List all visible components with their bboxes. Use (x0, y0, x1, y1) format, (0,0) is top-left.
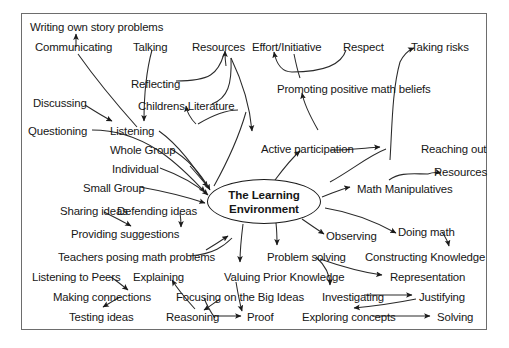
node-reaching-out[interactable]: Reaching out (421, 144, 486, 156)
node-writing-own-story-problems[interactable]: Writing own story problems (30, 22, 163, 34)
center-label-line-2: Environment (207, 202, 321, 216)
node-reasoning[interactable]: Reasoning (166, 312, 219, 324)
node-taking-risks[interactable]: Taking risks (411, 42, 469, 54)
center-label-line-1: The Learning (207, 188, 321, 202)
node-whole-group[interactable]: Whole Group (110, 145, 175, 157)
node-observing[interactable]: Observing (326, 231, 377, 243)
node-representation[interactable]: Representation (390, 272, 465, 284)
cutoff-header-text: Math Climate (22, 0, 93, 7)
node-explaining[interactable]: Explaining (133, 272, 184, 284)
node-resources-right[interactable]: Resources (434, 167, 487, 179)
node-math-manipulatives[interactable]: Math Manipulatives (357, 184, 452, 196)
node-focusing-on-the-big-ideas[interactable]: Focusing on the Big Ideas (176, 292, 304, 304)
node-making-connections[interactable]: Making connections (53, 292, 151, 304)
node-testing-ideas[interactable]: Testing ideas (69, 312, 134, 324)
node-exploring-concepts[interactable]: Exploring concepts (302, 312, 396, 324)
node-justifying[interactable]: Justifying (419, 292, 465, 304)
node-doing-math[interactable]: Doing math (398, 227, 455, 239)
node-defending-ideas[interactable]: Defending ideas (117, 206, 197, 218)
node-individual[interactable]: Individual (112, 164, 159, 176)
center-node-label: The Learning Environment (207, 188, 321, 215)
node-resources-top[interactable]: Resources (192, 42, 245, 54)
node-problem-solving[interactable]: Problem solving (267, 252, 346, 264)
node-listening[interactable]: Listening (110, 126, 154, 138)
node-listening-to-peers[interactable]: Listening to Peers (32, 272, 120, 284)
node-small-group[interactable]: Small Group (83, 183, 145, 195)
node-effort-initiative[interactable]: Effort/Initiative (252, 42, 321, 54)
node-discussing[interactable]: Discussing (33, 98, 87, 110)
node-valuing-prior-knowledge[interactable]: Valuing Prior Knowledge (224, 272, 344, 284)
node-reflecting[interactable]: Reflecting (131, 79, 180, 91)
node-childrens-literature[interactable]: Childrens Literature (138, 101, 234, 113)
node-talking[interactable]: Talking (133, 42, 167, 54)
node-proof[interactable]: Proof (247, 312, 273, 324)
node-solving[interactable]: Solving (437, 312, 473, 324)
node-respect[interactable]: Respect (343, 42, 384, 54)
node-constructing-knowledge[interactable]: Constructing Knowledge (365, 252, 485, 264)
node-teachers-posing-math-problems[interactable]: Teachers posing math problems (58, 252, 215, 264)
diagram-page: Math Climate (0, 0, 509, 348)
node-providing-suggestions[interactable]: Providing suggestions (71, 229, 179, 241)
node-active-participation[interactable]: Active participation (261, 144, 354, 156)
node-promoting-positive-math-beliefs[interactable]: Promoting positive math beliefs (277, 84, 431, 96)
node-questioning[interactable]: Questioning (28, 126, 87, 138)
node-communicating[interactable]: Communicating (35, 42, 112, 54)
node-investigating[interactable]: Investigating (322, 292, 384, 304)
